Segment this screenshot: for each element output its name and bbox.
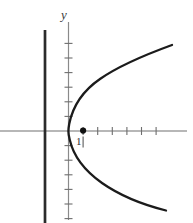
graph-canvas — [0, 0, 193, 223]
focus-point-label: 1 — [76, 136, 82, 147]
parabola-figure: y 1 — [0, 0, 193, 223]
y-axis-label: y — [61, 8, 67, 21]
focus-point-marker — [80, 128, 86, 134]
